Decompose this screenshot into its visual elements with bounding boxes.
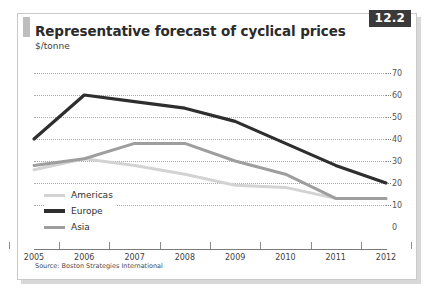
- legend-swatch-asia-icon: [44, 226, 65, 229]
- legend-item-americas[interactable]: Americas: [44, 187, 116, 203]
- y-tick-label-10: 10: [392, 201, 402, 210]
- figure-number-badge: 12.2: [369, 10, 411, 27]
- x-tick-label-2011: 2011: [326, 253, 346, 262]
- x-tick-label-2012: 2012: [376, 253, 396, 262]
- y-tick-label-70: 70: [392, 69, 402, 78]
- chart-legend: AmericasEuropeAsia: [44, 187, 116, 235]
- legend-item-europe[interactable]: Europe: [44, 203, 116, 219]
- legend-label-asia: Asia: [71, 222, 90, 232]
- y-tick-label-40: 40: [392, 135, 402, 144]
- series-line-europe: [34, 95, 386, 183]
- y-tick-dash-10: [386, 205, 391, 206]
- x-tick-label-2007: 2007: [124, 253, 144, 262]
- figure-root: 12.2 Representative forecast of cyclical…: [0, 0, 437, 302]
- figure-card: 12.2 Representative forecast of cyclical…: [17, 13, 417, 280]
- chart-subtitle-units: $/tonne: [35, 41, 70, 51]
- x-axis-line: [34, 249, 387, 250]
- x-tick-label-2009: 2009: [225, 253, 245, 262]
- x-tick-2007: [109, 242, 110, 249]
- y-tick-label-50: 50: [392, 113, 402, 122]
- x-tick-label-2008: 2008: [175, 253, 195, 262]
- legend-swatch-americas-icon: [44, 194, 65, 197]
- legend-label-americas: Americas: [71, 190, 113, 200]
- x-tick-2005: [9, 242, 10, 249]
- y-tick-label-30: 30: [392, 157, 402, 166]
- y-tick-label-60: 60: [392, 91, 402, 100]
- y-tick-dash-60: [386, 95, 391, 96]
- y-tick-dash-40: [386, 139, 391, 140]
- chart-title: Representative forecast of cyclical pric…: [35, 23, 346, 39]
- legend-swatch-europe-icon: [44, 209, 65, 213]
- x-tick-label-2005: 2005: [24, 253, 44, 262]
- legend-label-europe: Europe: [71, 206, 103, 216]
- x-tick-2008: [160, 242, 161, 249]
- y-tick-label-0: 0: [392, 223, 397, 232]
- x-tick-end: [411, 242, 412, 249]
- x-tick-2006: [59, 242, 60, 249]
- x-tick-2012: [361, 242, 362, 249]
- corner-accent-bar: [23, 17, 30, 37]
- y-tick-dash-70: [386, 73, 391, 74]
- x-tick-label-2010: 2010: [275, 253, 295, 262]
- x-tick-2010: [260, 242, 261, 249]
- legend-item-asia[interactable]: Asia: [44, 219, 116, 235]
- x-tick-2009: [210, 242, 211, 249]
- x-tick-label-2006: 2006: [74, 253, 94, 262]
- y-tick-label-20: 20: [392, 179, 402, 188]
- y-tick-dash-30: [386, 161, 391, 162]
- chart-source: Source: Boston Strategies International: [35, 262, 163, 270]
- y-tick-dash-50: [386, 117, 391, 118]
- x-tick-2011: [311, 242, 312, 249]
